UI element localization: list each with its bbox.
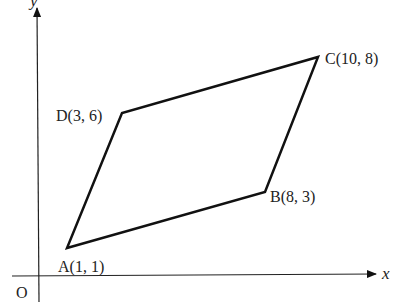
vertex-b-label: B(8, 3) <box>270 188 315 206</box>
x-axis-label: x <box>381 264 390 283</box>
coordinate-plane: x y O A(1, 1) B(8, 3) C(10, 8) D(3, 6) <box>0 0 398 307</box>
origin-label: O <box>16 284 28 301</box>
vertex-d-label: D(3, 6) <box>56 107 102 125</box>
y-axis <box>37 8 39 302</box>
y-axis-label: y <box>28 0 38 10</box>
vertex-a-label: A(1, 1) <box>58 258 104 276</box>
parallelogram-abcd <box>67 57 318 248</box>
vertex-c-label: C(10, 8) <box>325 50 378 68</box>
